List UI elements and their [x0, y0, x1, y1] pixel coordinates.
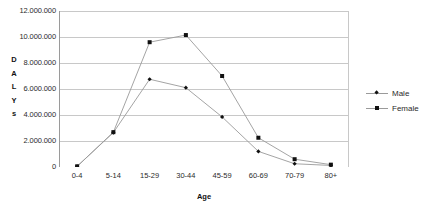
legend-item-male[interactable]: Male — [366, 86, 442, 101]
legend-label-female: Female — [388, 105, 419, 113]
y-axis-title-letter: Y — [8, 94, 20, 108]
y-axis-title-letter: A — [8, 67, 20, 81]
y-axis-title-letter: D — [8, 53, 20, 67]
x-axis-title: Age — [59, 192, 349, 201]
x-axis-tick-label: 45-59 — [202, 172, 242, 180]
y-axis-tick-label: 6.000.000 — [24, 85, 56, 93]
y-axis-title: DALYs — [8, 53, 20, 121]
legend-label-male: Male — [388, 90, 409, 98]
x-axis-tick-labels: 0-45-1415-2930-4445-5960-6970-7980+ — [59, 172, 349, 186]
x-axis-tick-label: 70-79 — [275, 172, 315, 180]
legend-marker-square-icon — [366, 103, 388, 114]
y-axis-title-letter: L — [8, 80, 20, 94]
data-point-female-1[interactable] — [111, 130, 115, 134]
series-line-male — [77, 79, 331, 166]
data-point-female-0[interactable] — [75, 164, 79, 167]
data-point-male-6[interactable] — [293, 162, 297, 166]
y-axis-tick-label: 10.000.000 — [19, 33, 56, 41]
x-axis-tick-label: 15-29 — [130, 172, 170, 180]
x-axis-tick-label: 0-4 — [57, 172, 97, 180]
data-point-female-4[interactable] — [220, 74, 224, 78]
x-axis-tick-label: 30-44 — [166, 172, 206, 180]
data-point-female-6[interactable] — [293, 157, 297, 161]
y-axis-title-letter: s — [8, 107, 20, 121]
plot-area — [59, 11, 349, 167]
x-axis-tick-label: 60-69 — [238, 172, 278, 180]
chart-legend: Male Female — [366, 86, 442, 116]
series-line-female — [77, 35, 331, 166]
y-axis-tick-label: 0 — [52, 163, 56, 171]
data-point-female-7[interactable] — [329, 163, 333, 167]
chart-container: 12.000.00010.000.0008.000.0006.000.0004.… — [0, 0, 443, 211]
x-axis-tick-label: 5-14 — [93, 172, 133, 180]
data-point-female-2[interactable] — [148, 40, 152, 44]
y-axis-tick-label: 4.000.000 — [24, 111, 56, 119]
y-axis-tick-label: 8.000.000 — [24, 59, 56, 67]
x-axis-tick-label: 80+ — [311, 172, 351, 180]
y-axis-tick-label: 12.000.000 — [19, 7, 56, 15]
chart-svg — [59, 11, 349, 167]
data-point-female-3[interactable] — [184, 33, 188, 37]
legend-item-female[interactable]: Female — [366, 101, 442, 116]
legend-marker-diamond-icon — [366, 88, 388, 99]
y-axis-tick-label: 2.000.000 — [24, 137, 56, 145]
data-point-female-5[interactable] — [256, 136, 260, 140]
